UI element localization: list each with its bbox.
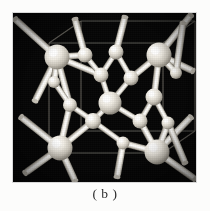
atom-inner: [48, 76, 60, 88]
atom-highlight: [149, 91, 155, 97]
figure-caption: ( b ): [0, 186, 210, 202]
atom-inner: [117, 137, 130, 150]
atom-highlight: [50, 78, 54, 82]
atom-corner: [45, 45, 70, 70]
atom-highlight: [119, 138, 123, 142]
crystal-structure-image: [13, 13, 196, 182]
atom-inner: [124, 71, 139, 86]
atom-inner: [94, 68, 109, 83]
atom-inner: [146, 89, 163, 106]
atom-highlight: [151, 46, 160, 55]
atom-highlight: [111, 47, 116, 52]
atom-highlight: [149, 143, 158, 152]
atom-highlight: [66, 100, 71, 105]
atom-center: [99, 92, 122, 115]
atom-inner: [85, 113, 101, 129]
atom-highlight: [164, 118, 168, 122]
atom-corner: [48, 136, 73, 161]
atom-highlight: [126, 73, 131, 78]
atom-inner: [109, 45, 124, 60]
figure-panel-b: ( b ): [0, 0, 210, 211]
atom-highlight: [49, 48, 58, 57]
crystal-structure-svg: [13, 13, 196, 182]
atom-inner: [78, 48, 93, 63]
atom-highlight: [88, 115, 93, 120]
atom-inner: [162, 117, 175, 130]
atom-corner: [145, 140, 170, 165]
atom-highlight: [52, 139, 61, 148]
atom-highlight: [103, 95, 111, 103]
atom-inner: [133, 114, 148, 129]
atom-corner: [147, 43, 172, 68]
atom-highlight: [96, 70, 101, 75]
atom-highlight: [135, 116, 140, 121]
atom-highlight: [80, 50, 85, 55]
atom-highlight: [172, 69, 176, 73]
atom-inner: [63, 98, 77, 112]
atom-inner: [170, 67, 182, 79]
